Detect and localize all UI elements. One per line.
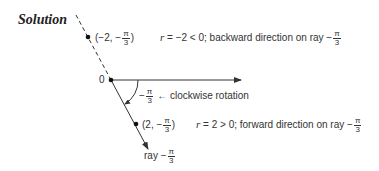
point-neg-label: (−2, −π3) [95,30,134,47]
note-text: = 2 > 0; forward direction on ray − [200,119,353,130]
point-neg-suffix: ) [131,32,134,43]
fraction: π3 [168,148,176,165]
point-neg-dot [86,35,91,40]
angle-label: −π3 ← clockwise rotation [139,88,249,105]
origin-label: 0 [99,75,105,85]
origin-dot [109,78,114,83]
fraction: π3 [122,30,130,47]
fraction: π3 [354,117,362,134]
point-pos-dot [134,122,139,127]
rotation-text: clockwise rotation [167,90,249,101]
point-pos-prefix: (2, − [142,119,162,130]
point-neg-prefix: (−2, − [95,32,121,43]
point-neg-note: r = −2 < 0; backward direction on ray −π… [160,30,342,47]
minus-sign: − [139,90,145,101]
fraction: π3 [146,88,154,105]
note-text: = −2 < 0; backward direction on ray − [164,32,332,43]
left-arrow-icon: ← [157,90,167,101]
ray-prefix: ray − [144,150,167,161]
point-pos-suffix: ) [172,119,175,130]
polar-diagram [0,0,379,171]
rotation-arc [125,80,138,104]
ray-label: ray −π3 [144,148,176,165]
point-pos-label: (2, −π3) [142,117,175,134]
backward-dashed-line [76,15,111,80]
fraction: π3 [163,117,171,134]
fraction: π3 [333,30,341,47]
point-pos-note: r = 2 > 0; forward direction on ray −π3 [196,117,362,134]
